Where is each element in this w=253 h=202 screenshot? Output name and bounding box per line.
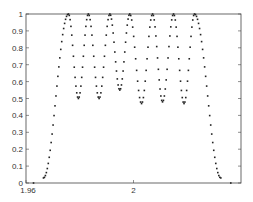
data-point <box>47 168 49 170</box>
data-point <box>164 88 166 90</box>
data-point <box>208 105 210 107</box>
data-point <box>175 26 177 28</box>
data-point <box>184 101 186 103</box>
y-tick-label: 0.2 <box>12 145 24 154</box>
data-point <box>132 26 134 28</box>
data-point <box>68 15 70 17</box>
data-point <box>158 69 160 71</box>
data-point <box>78 96 80 98</box>
data-point <box>180 80 182 82</box>
data-point <box>150 19 152 21</box>
data-point <box>202 49 204 51</box>
data-point <box>174 19 176 21</box>
data-point <box>213 150 215 152</box>
data-point <box>178 58 180 60</box>
data-point <box>176 36 178 38</box>
data-point <box>155 35 157 37</box>
data-point <box>114 51 116 53</box>
y-tick-label: 0.9 <box>12 27 24 36</box>
data-point <box>52 124 54 126</box>
data-point <box>201 41 203 43</box>
y-tick-label: 0.5 <box>12 95 24 104</box>
data-point <box>199 28 201 30</box>
data-point <box>121 84 123 86</box>
data-point <box>106 26 108 28</box>
data-point <box>127 18 129 20</box>
data-point <box>165 79 167 81</box>
data-point <box>46 172 48 174</box>
data-point <box>181 97 183 99</box>
data-point <box>101 85 103 87</box>
data-point <box>103 66 105 68</box>
data-point <box>88 13 90 15</box>
data-point <box>55 95 57 97</box>
data-point <box>117 78 119 80</box>
data-point <box>215 163 217 165</box>
data-point <box>53 115 55 117</box>
data-point <box>159 88 161 90</box>
data-point <box>200 34 202 36</box>
data-point <box>84 34 86 36</box>
data-point <box>134 46 136 48</box>
data-point <box>183 103 185 105</box>
data-point <box>138 90 140 92</box>
data-point <box>191 26 193 28</box>
data-point <box>145 70 147 72</box>
data-point <box>205 76 207 78</box>
data-point <box>105 34 107 36</box>
data-point <box>71 34 73 36</box>
data-point <box>189 46 191 48</box>
data-point <box>168 46 170 48</box>
data-point <box>83 45 85 47</box>
data-point <box>151 15 153 17</box>
data-point <box>147 46 149 48</box>
data-point <box>62 34 64 36</box>
data-point <box>112 24 114 26</box>
data-point <box>73 66 75 68</box>
data-point <box>99 96 101 98</box>
data-point <box>135 58 137 60</box>
data-point <box>72 45 74 47</box>
data-point <box>186 90 188 92</box>
line-chart: 00.10.20.30.40.50.60.70.80.91 1.962 <box>0 0 253 202</box>
data-point <box>216 168 218 170</box>
data-point <box>48 157 50 159</box>
data-point <box>230 182 232 184</box>
data-point <box>65 19 67 21</box>
plot-area <box>26 14 241 183</box>
data-point <box>195 14 197 16</box>
data-point <box>54 105 56 107</box>
data-point <box>126 24 128 26</box>
data-point <box>156 46 158 48</box>
data-point <box>143 97 145 99</box>
data-point <box>104 55 106 57</box>
data-point <box>121 78 123 80</box>
data-point <box>95 77 97 79</box>
data-point <box>187 80 189 82</box>
data-point <box>86 19 88 21</box>
data-point <box>50 142 52 144</box>
data-point <box>61 41 63 43</box>
data-point <box>79 92 81 94</box>
data-point <box>83 55 85 57</box>
data-point <box>130 15 132 17</box>
data-point <box>181 90 183 92</box>
data-point <box>129 13 131 15</box>
data-point <box>166 69 168 71</box>
data-point <box>94 66 96 68</box>
data-point <box>173 13 175 15</box>
data-point <box>207 95 209 97</box>
y-tick-label: 0.4 <box>12 111 24 120</box>
data-point <box>210 124 212 126</box>
data-point <box>217 172 219 174</box>
data-point <box>193 15 195 17</box>
data-point <box>64 23 66 25</box>
data-point <box>111 18 113 20</box>
data-point <box>209 115 211 117</box>
data-point <box>154 26 156 28</box>
data-point <box>192 19 194 21</box>
data-point <box>91 34 93 36</box>
data-point <box>105 45 107 47</box>
y-tick-label: 1 <box>19 10 24 19</box>
data-point <box>161 100 163 102</box>
